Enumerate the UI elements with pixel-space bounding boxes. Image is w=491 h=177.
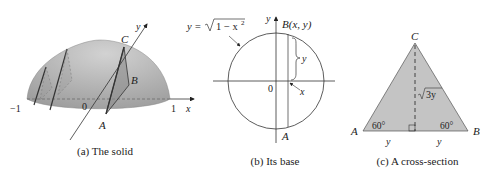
point-a-label: A xyxy=(98,119,106,131)
y-axis-label: y xyxy=(135,21,141,32)
panel-c-cross-section: C A B 60° 60° y y 3y xyxy=(350,30,480,147)
equation-lhs: y = xyxy=(186,21,201,32)
caption-c: (c) A cross-section xyxy=(360,155,475,167)
origin-label: 0 xyxy=(82,101,87,112)
base-right-label: y xyxy=(436,136,442,147)
c-point-a-label: A xyxy=(350,125,358,137)
equilateral-triangle xyxy=(363,43,468,131)
x-axis-label: x xyxy=(185,103,191,114)
b-y-seg-label: y xyxy=(301,53,307,64)
equation-radicand: 1 − x xyxy=(216,21,238,32)
point-b-label: B xyxy=(131,74,138,86)
x-pointer xyxy=(290,83,300,90)
c-point-c-label: C xyxy=(411,30,419,42)
equation-exponent: 2 xyxy=(241,19,245,27)
panel-b-base: y y x B(x, y) 0 A y = 1 − x 2 xyxy=(186,13,335,143)
caption-b: (b) Its base xyxy=(220,155,330,167)
point-c-label: C xyxy=(121,33,129,45)
one-label: 1 xyxy=(171,103,176,114)
panel-a-solid: y C B A 0 −1 1 x xyxy=(10,21,194,140)
equation-pointer xyxy=(229,36,240,46)
dome-surface xyxy=(27,40,170,109)
base-left-label: y xyxy=(385,136,391,147)
brace-y xyxy=(291,38,300,80)
angle-right-label: 60° xyxy=(440,121,454,131)
b-y-axis-label: y xyxy=(265,13,271,24)
height-label: 3y xyxy=(426,89,436,100)
angle-left-label: 60° xyxy=(372,121,386,131)
c-point-b-label: B xyxy=(473,125,480,137)
caption-a: (a) The solid xyxy=(50,145,160,157)
b-point-a-label: A xyxy=(281,130,289,142)
minus-one-label: −1 xyxy=(10,103,21,114)
point-b-coords-label: B(x, y) xyxy=(282,18,312,31)
b-x-seg-label: x xyxy=(299,86,305,97)
b-origin-label: 0 xyxy=(268,83,273,94)
